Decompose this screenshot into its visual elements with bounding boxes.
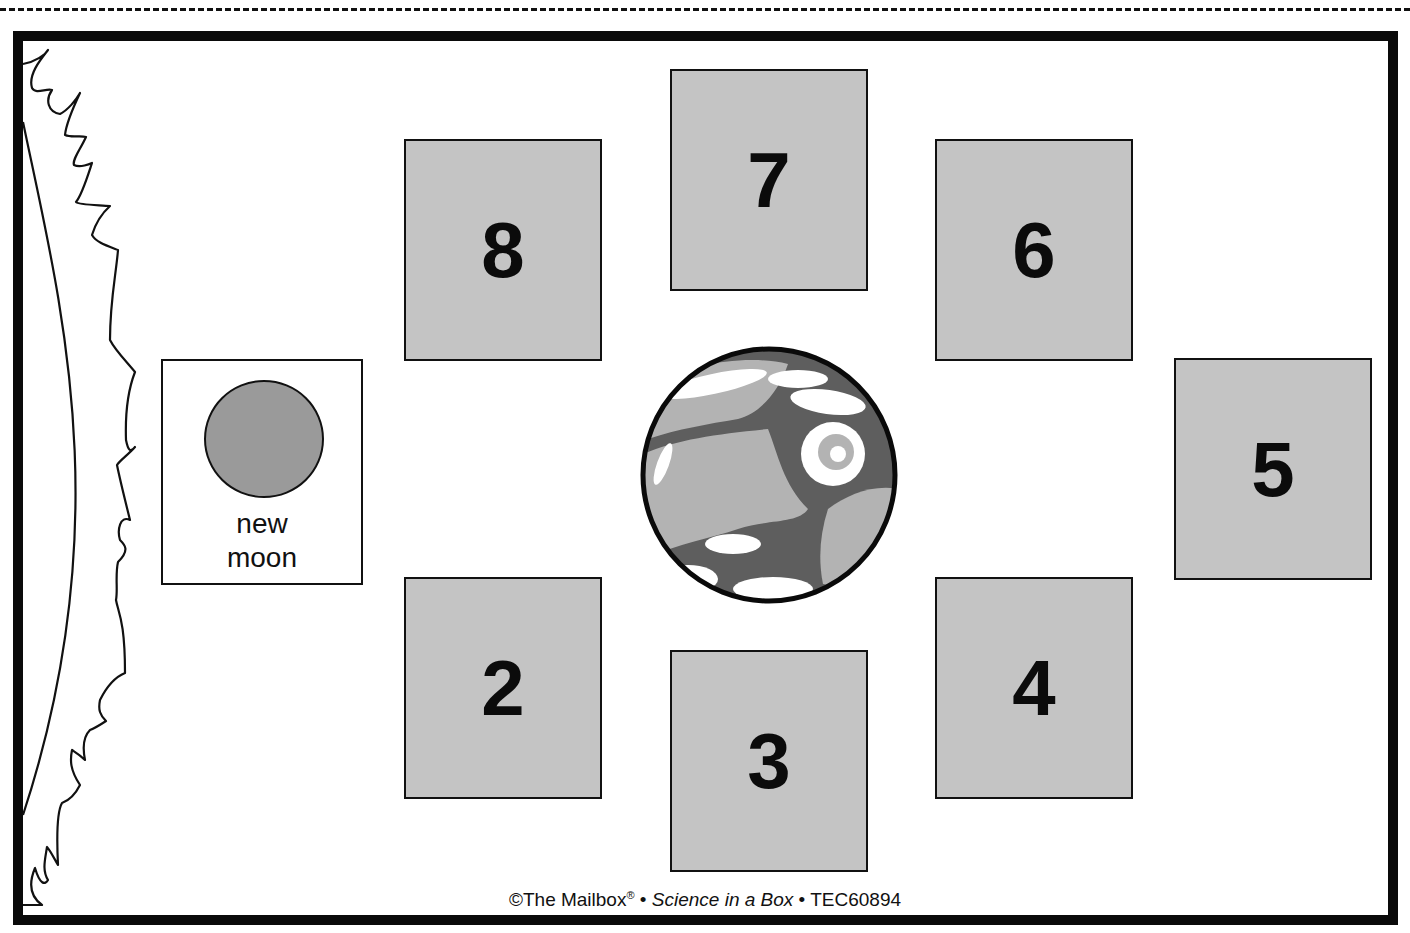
phase-box-3[interactable]: 3 (670, 650, 868, 872)
phase-box-8[interactable]: 8 (404, 139, 602, 361)
phase-number: 7 (747, 141, 790, 219)
footer-registered: ® (626, 889, 634, 901)
new-moon-label-line1: new (163, 507, 361, 541)
new-moon-card: new moon (161, 359, 363, 585)
footer-copyright: ©The Mailbox (509, 889, 627, 910)
phase-number: 8 (481, 211, 524, 289)
phase-box-5[interactable]: 5 (1174, 358, 1372, 580)
sun-icon (0, 0, 160, 933)
phase-box-7[interactable]: 7 (670, 69, 868, 291)
footer-title: Science in a Box (652, 889, 794, 910)
phase-number: 2 (481, 649, 524, 727)
earth-icon (638, 344, 900, 606)
phase-number: 5 (1251, 430, 1294, 508)
new-moon-label: new moon (163, 507, 361, 575)
phase-box-6[interactable]: 6 (935, 139, 1133, 361)
phase-number: 6 (1012, 211, 1055, 289)
footer-code: TEC60894 (810, 889, 901, 910)
footer-separator: • (793, 889, 810, 910)
new-moon-label-line2: moon (163, 541, 361, 575)
footer-separator: • (635, 889, 652, 910)
footer-credit: ©The Mailbox® • Science in a Box • TEC60… (0, 889, 1410, 911)
phase-box-4[interactable]: 4 (935, 577, 1133, 799)
phase-number: 3 (747, 722, 790, 800)
cut-line (0, 8, 1410, 11)
new-moon-icon (204, 380, 324, 498)
phase-box-2[interactable]: 2 (404, 577, 602, 799)
phase-number: 4 (1012, 649, 1055, 727)
